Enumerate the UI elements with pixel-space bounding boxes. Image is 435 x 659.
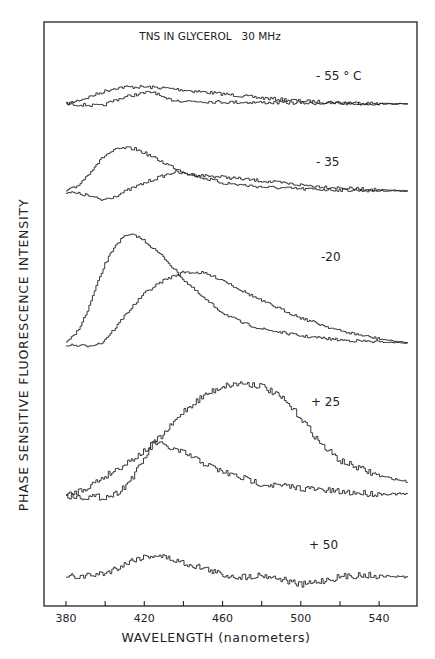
spectrum-trace bbox=[66, 147, 408, 192]
label-plus-25: + 25 bbox=[311, 395, 340, 409]
spectrum-trace bbox=[66, 91, 408, 106]
x-tick-label: 420 bbox=[134, 612, 155, 625]
x-axis-title: WAVELENGTH (nanometers) bbox=[121, 630, 310, 645]
spectrum-trace bbox=[66, 555, 408, 587]
x-tick-label: 380 bbox=[56, 612, 77, 625]
y-axis-title: PHASE SENSITIVE FLUORESCENCE INTENSITY bbox=[16, 199, 31, 512]
traces bbox=[66, 86, 408, 587]
spectrum-trace bbox=[66, 271, 408, 347]
label-minus-55: - 55 ° C bbox=[316, 69, 361, 83]
label-minus-20: -20 bbox=[321, 250, 341, 264]
chart-title: TNS IN GLYCEROL 30 MHz bbox=[138, 30, 281, 42]
x-axis: 380420460500540 bbox=[56, 601, 390, 625]
x-tick-label: 540 bbox=[369, 612, 390, 625]
x-tick-label: 460 bbox=[212, 612, 233, 625]
spectrum-trace bbox=[66, 382, 408, 496]
plot-frame bbox=[44, 22, 417, 606]
x-tick-label: 500 bbox=[290, 612, 311, 625]
label-plus-50: + 50 bbox=[309, 538, 338, 552]
label-minus-35: - 35 bbox=[316, 155, 339, 169]
fluorescence-chart: TNS IN GLYCEROL 30 MHz - 55 ° C - 35 -20… bbox=[0, 0, 435, 659]
